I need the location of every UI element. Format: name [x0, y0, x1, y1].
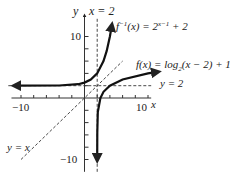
y-tick-10-label: 10	[70, 30, 82, 42]
x-eq-2-label: x = 2	[88, 4, 114, 18]
x-tick-10-label: 10	[136, 101, 148, 113]
finv-sup: −1	[119, 20, 127, 28]
y-tick-neg10-label: −10	[60, 153, 78, 165]
function-label: f(x) = log2(x − 2) + 1	[136, 58, 231, 73]
graph-canvas: y x = 2 10 −10 −10 10 x y = 2 y = x f−1(…	[0, 0, 238, 180]
y-eq-2-label: y = 2	[159, 77, 184, 89]
finv-exp: x−1	[157, 20, 169, 28]
function-curves	[15, 25, 158, 159]
finv-tail: + 2	[169, 20, 188, 32]
curve	[97, 72, 157, 160]
x-axis-label: x	[150, 98, 156, 110]
f-label-main: f(x) = log	[136, 58, 179, 71]
dashed-line	[21, 61, 123, 159]
f-label-tail: (x − 2) + 1	[182, 58, 231, 71]
y-eq-x-label: y = x	[6, 141, 30, 153]
y-axis-label: y	[72, 4, 79, 18]
finv-rest: (x) = 2	[127, 20, 158, 33]
x-tick-neg10-label: −10	[12, 101, 30, 113]
inverse-function-label: f−1(x) = 2x−1 + 2	[116, 20, 188, 33]
